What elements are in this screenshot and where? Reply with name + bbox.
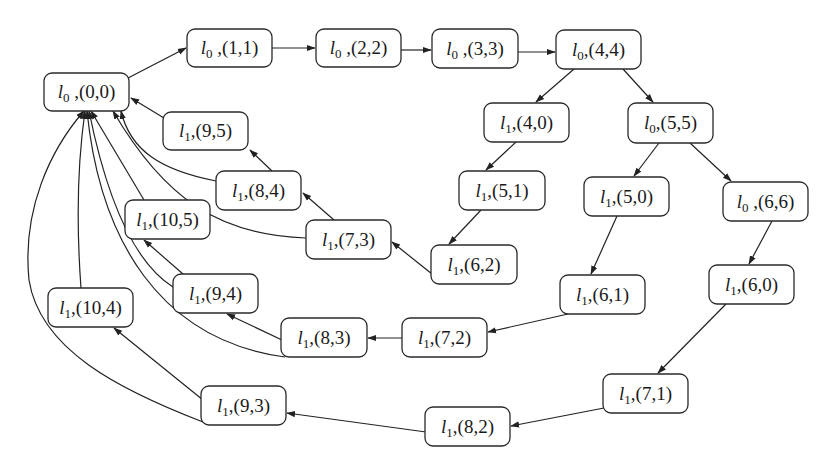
state-node: l1,(10,5) <box>125 200 210 239</box>
node-state: ,(10,5) <box>148 209 199 231</box>
state-node: l0,(4,4) <box>556 30 641 69</box>
node-state: ,(8,2) <box>453 416 494 438</box>
state-node: l1,(7,3) <box>306 220 391 259</box>
edge-arrow <box>486 142 516 170</box>
node-state: ,(8,4) <box>244 180 285 202</box>
state-node: l1,(5,1) <box>459 171 545 210</box>
node-state: ,(6,0) <box>737 274 778 296</box>
node-state: ,(3,3) <box>458 38 504 60</box>
state-node: l1,(9,3) <box>201 386 286 425</box>
node-state: ,(4,4) <box>584 39 625 61</box>
edge-arrow <box>250 150 272 171</box>
edge-arrow <box>749 221 772 264</box>
edge-arrow <box>658 304 726 373</box>
edge-arrow <box>634 143 659 176</box>
node-state: ,(6,1) <box>588 284 629 306</box>
state-node: l1,(6,1) <box>560 275 645 314</box>
edge-arrow <box>227 314 282 340</box>
edge-arrow <box>449 210 481 244</box>
node-state: ,(10,4) <box>71 297 122 319</box>
node-state: ,(5,5) <box>656 112 697 134</box>
state-node: l0 ,(1,1) <box>187 29 272 67</box>
state-node: l1,(8,4) <box>216 171 301 210</box>
state-node: l0 ,(2,2) <box>316 29 401 67</box>
state-node: l1,(4,0) <box>484 103 569 142</box>
node-state: ,(2,2) <box>341 37 387 59</box>
edge-arrow <box>131 98 164 118</box>
edge-arrow <box>28 111 203 422</box>
edge-arrow <box>303 193 334 220</box>
edge-arrow <box>128 48 186 78</box>
edge-arrow <box>114 328 203 400</box>
edge-arrow <box>690 143 731 181</box>
edge-arrow <box>591 216 617 274</box>
edge-arrow <box>536 69 574 102</box>
node-state: ,(7,2) <box>430 327 471 349</box>
edge-arrow <box>144 240 183 274</box>
node-state: ,(6,2) <box>459 254 500 276</box>
node-state: ,(1,1) <box>212 37 258 59</box>
edge-arrow <box>511 408 604 426</box>
state-node: l1,(10,4) <box>48 288 133 327</box>
state-node: l1,(6,2) <box>431 245 517 284</box>
state-node: l1,(6,0) <box>709 265 794 304</box>
state-node: l1,(7,1) <box>603 374 688 413</box>
edge-arrow <box>392 242 432 274</box>
state-node: l1,(8,3) <box>281 318 367 357</box>
node-state: ,(0,0) <box>69 81 115 103</box>
node-state: ,(9,4) <box>201 283 242 305</box>
state-node: l0 ,(3,3) <box>432 29 518 68</box>
edge-arrow <box>78 111 85 288</box>
node-state: ,(8,3) <box>309 327 350 349</box>
node-state: ,(5,0) <box>612 186 653 208</box>
edge-arrow <box>89 111 173 287</box>
node-layer: l0 ,(0,0)l0 ,(1,1)l0 ,(2,2)l0 ,(3,3)l0,(… <box>44 29 808 446</box>
node-state: ,(7,1) <box>631 383 672 405</box>
state-node: l1,(5,0) <box>584 177 669 216</box>
node-state: ,(6,6) <box>748 191 794 213</box>
state-node: l1,(9,4) <box>173 274 258 313</box>
state-node: l1,(7,2) <box>402 318 487 357</box>
state-node: l1,(9,5) <box>163 112 248 150</box>
node-state: ,(7,3) <box>334 229 375 251</box>
edge-arrow <box>488 314 568 332</box>
node-state: ,(9,3) <box>229 395 270 417</box>
state-node: l0,(5,5) <box>628 103 713 143</box>
state-node: l1,(8,2) <box>425 407 510 446</box>
state-node: l0 ,(6,6) <box>723 182 808 221</box>
node-state: ,(9,5) <box>191 120 232 142</box>
node-state: ,(5,1) <box>487 180 528 202</box>
state-node: l0 ,(0,0) <box>44 73 129 111</box>
edge-arrow <box>623 69 653 102</box>
state-graph: l0 ,(0,0)l0 ,(1,1)l0 ,(2,2)l0 ,(3,3)l0,(… <box>0 0 838 472</box>
node-state: ,(4,0) <box>512 112 553 134</box>
edge-arrow <box>287 413 426 432</box>
